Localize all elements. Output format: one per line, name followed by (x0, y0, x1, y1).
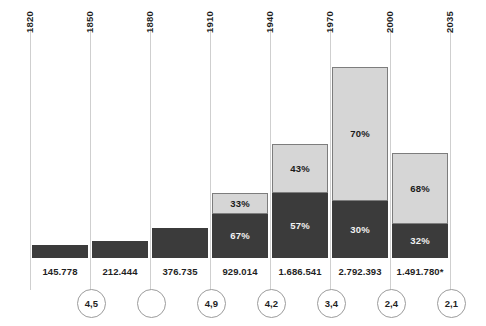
bar-value-label: 145.778 (28, 266, 92, 277)
bar-value-label: 2.792.393 (328, 266, 392, 277)
growth-factor-circle-label: 4,9 (205, 298, 219, 309)
bar-1940-1970: 43%57% (272, 144, 328, 258)
growth-factor-circle-2035: 2,1 (437, 289, 466, 318)
growth-factor-circle-1940: 4,2 (257, 289, 286, 318)
axis-tick-label-1970: 1970 (324, 11, 335, 33)
bar-segment-light-label: 33% (230, 199, 250, 209)
bar-segment-total (92, 241, 148, 258)
bar-segment-light: 68% (392, 153, 448, 224)
bar-1850-1880 (92, 241, 148, 258)
growth-factor-circle-label: 4,5 (85, 298, 99, 309)
axis-tick-label-1880: 1880 (144, 11, 155, 33)
bar-value-label: 929.014 (208, 266, 272, 277)
axis-tick-label-1910: 1910 (204, 11, 215, 33)
axis-tick-label-1940: 1940 (264, 11, 275, 33)
growth-factor-circle-label: 3,4 (325, 298, 339, 309)
bar-2000-2035: 68%32% (392, 153, 448, 258)
axis-tick-label-1850: 1850 (84, 11, 95, 33)
bar-segment-light: 70% (332, 67, 388, 201)
growth-factor-circle-2000: 2,4 (377, 289, 406, 318)
axis-tick-label-2000: 2000 (384, 11, 395, 33)
bar-segment-total (152, 228, 208, 258)
bar-segment-dark: 67% (212, 214, 268, 258)
gridline-1940 (270, 28, 271, 290)
bar-value-label: 1.491.780* (388, 266, 452, 277)
bar-segment-dark-label: 57% (290, 221, 310, 231)
growth-factor-circle-1970: 3,4 (317, 289, 346, 318)
bar-segment-dark: 57% (272, 193, 328, 258)
bar-1880-1910 (152, 228, 208, 258)
bar-segment-dark-label: 67% (230, 231, 250, 241)
bar-1910-1940: 33%67% (212, 193, 268, 258)
gridline-1970 (330, 28, 331, 290)
gridline-2035 (450, 28, 451, 290)
axis-tick-label-1820: 1820 (24, 11, 35, 33)
gridline-1880 (150, 28, 151, 290)
growth-factor-circle-1850: 4,5 (77, 289, 106, 318)
bar-segment-total (32, 245, 88, 258)
bar-1820-1850 (32, 245, 88, 258)
bar-segment-light: 33% (212, 193, 268, 214)
growth-factor-circle-1910: 4,9 (197, 289, 226, 318)
gridline-1820 (30, 28, 31, 290)
bar-segment-dark: 30% (332, 201, 388, 258)
stacked-bar-chart: 18201850188019101940197020002035145.7784… (0, 0, 486, 326)
gridline-1850 (90, 28, 91, 290)
bar-segment-light-label: 68% (410, 184, 430, 194)
bar-segment-dark: 32% (392, 224, 448, 258)
axis-tick-label-2035: 2035 (444, 11, 455, 33)
growth-factor-circle-label: 4,2 (265, 298, 279, 309)
bar-segment-dark-label: 32% (410, 236, 430, 246)
bar-segment-dark-label: 30% (350, 225, 370, 235)
bar-segment-light-label: 70% (350, 129, 370, 139)
growth-factor-circle-label: 2,4 (385, 298, 399, 309)
bar-1970-2000: 70%30% (332, 67, 388, 258)
growth-factor-circle-1880 (137, 289, 166, 318)
bar-segment-light: 43% (272, 144, 328, 193)
gridline-1910 (210, 28, 211, 290)
growth-factor-circle-label: 2,1 (445, 298, 459, 309)
bar-value-label: 1.686.541 (268, 266, 332, 277)
bar-segment-light-label: 43% (290, 164, 310, 174)
gridline-2000 (390, 28, 391, 290)
bar-value-label: 212.444 (88, 266, 152, 277)
bar-value-label: 376.735 (148, 266, 212, 277)
